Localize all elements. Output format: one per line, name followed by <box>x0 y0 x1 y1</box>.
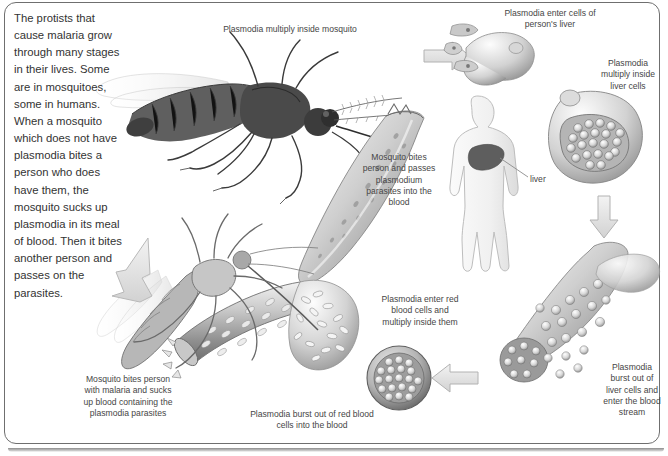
arrow-to-red-blood-cell-icon <box>432 364 478 392</box>
liver-cell-full-figure <box>548 90 642 183</box>
arrow-liver-down-icon <box>590 196 618 238</box>
caption-multiply-liver-cells: Plasmodia multiply inside liver cells <box>592 58 664 92</box>
caption-mosquito-bites-malaria-person: Mosquito bites person with malaria and s… <box>44 374 212 419</box>
caption-enter-liver-cells: Plasmodia enter cells of person's liver <box>480 8 620 31</box>
intro-paragraph: The protists that cause malaria grow thr… <box>14 10 122 302</box>
malaria-life-cycle-diagram: The protists that cause malaria grow thr… <box>0 0 668 456</box>
red-blood-cell-infected-figure <box>367 346 431 410</box>
caption-burst-red-blood-cells: Plasmodia burst out of red blood cells i… <box>232 409 392 432</box>
caption-enter-red-blood-cells: Plasmodia enter red blood cells and mult… <box>362 294 478 328</box>
caption-mosquito-bites-person: Mosquito bites person and passes plasmod… <box>352 152 446 209</box>
caption-burst-liver-cells: Plasmodia burst out of liver cells and e… <box>600 362 664 419</box>
caption-multiply-in-mosquito: Plasmodia multiply inside mosquito <box>195 24 385 35</box>
human-body-silhouette-figure <box>450 96 528 271</box>
label-liver: liver <box>530 174 546 184</box>
